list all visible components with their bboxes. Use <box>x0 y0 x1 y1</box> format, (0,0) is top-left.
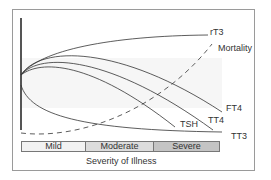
x-axis-label: Severity of Illness <box>86 156 157 166</box>
mortality-label: Mortality <box>218 43 252 53</box>
normal-range-band <box>22 58 222 108</box>
severity-severe: Severe <box>153 141 220 152</box>
severity-mild: Mild <box>21 141 86 152</box>
severity-moderate: Moderate <box>85 141 154 152</box>
tt4-label: TT4 <box>208 115 224 125</box>
ft4-label: FT4 <box>226 103 242 113</box>
tt3-label: TT3 <box>231 131 247 141</box>
tsh-label: TSH <box>180 119 198 129</box>
rt3-label: rT3 <box>210 27 224 37</box>
thyroid-curves <box>0 0 271 180</box>
